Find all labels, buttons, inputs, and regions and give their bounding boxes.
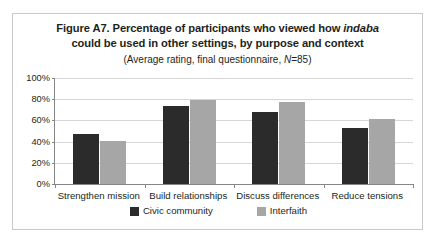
chart-legend: Civic community Interfaith [13,206,424,216]
bar-interfaith [190,100,216,184]
x-axis-tick-mark [234,184,235,188]
y-axis-tick-label: 80% [10,95,50,104]
x-axis-category-label: Reduce tensions [323,190,413,201]
plot-wrapper: 100%80%60%40%20%0%Strengthen missionBuil… [13,14,424,231]
bar-interfaith [369,119,395,184]
x-axis-category-label: Discuss differences [233,190,323,201]
x-axis-tick-mark [413,184,414,188]
bar-interfaith [100,141,126,184]
gridline [55,99,413,100]
y-axis-tick-mark [52,99,55,100]
x-axis-tick-mark [324,184,325,188]
y-axis-tick-label: 20% [10,159,50,168]
legend-swatch-icon-civic-community [130,207,139,216]
y-axis-tick-label: 100% [10,74,50,83]
gridline [55,120,413,121]
y-axis-tick-mark [52,120,55,121]
figure-container: Figure A7. Percentage of participants wh… [12,13,423,230]
legend-item-civic-community: Civic community [130,206,213,216]
bar-civic-community [252,112,278,184]
legend-swatch-icon-interfaith [257,207,266,216]
legend-label-interfaith: Interfaith [270,206,307,216]
legend-label-civic-community: Civic community [143,206,213,216]
legend-item-interfaith: Interfaith [257,206,307,216]
x-axis-category-label: Build relationships [144,190,234,201]
gridline [55,78,413,79]
bar-civic-community [73,134,99,184]
x-axis-tick-mark [145,184,146,188]
bar-interfaith [279,102,305,184]
y-axis-tick-mark [52,163,55,164]
bar-civic-community [163,106,189,184]
x-axis-tick-mark [55,184,56,188]
y-axis-tick-mark [52,142,55,143]
y-axis-tick-mark [52,78,55,79]
y-axis-tick-label: 40% [10,138,50,147]
x-axis-category-label: Strengthen mission [54,190,144,201]
y-axis-tick-label: 0% [10,180,50,189]
plot-area [54,78,413,185]
bar-civic-community [342,128,368,184]
y-axis-tick-label: 60% [10,116,50,125]
